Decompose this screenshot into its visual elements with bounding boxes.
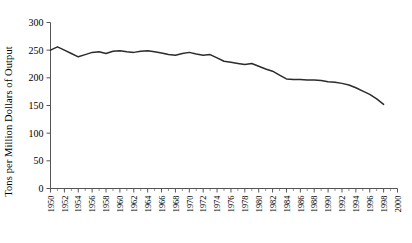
x-tick-label: 1978 xyxy=(241,196,250,213)
y-tick-label: 250 xyxy=(29,45,44,56)
x-tick-label: 1968 xyxy=(172,196,181,213)
x-tick-label: 1956 xyxy=(88,196,97,213)
x-tick-label: 1986 xyxy=(297,196,306,213)
y-axis-tick-marks xyxy=(47,23,51,189)
x-tick-label: 1966 xyxy=(158,196,167,213)
x-tick-label: 1974 xyxy=(213,195,222,213)
chart-figure: Tons per Million Dollars of Output 05010… xyxy=(0,0,412,243)
x-tick-label: 1954 xyxy=(74,195,83,213)
x-tick-label: 1952 xyxy=(61,196,70,213)
chart-plot-area: 050100150200250300 195019521954195619581… xyxy=(0,0,412,243)
x-tick-label: 2000 xyxy=(394,196,403,213)
x-tick-label: 1964 xyxy=(144,195,153,213)
x-tick-label: 1996 xyxy=(366,196,375,213)
y-tick-label: 300 xyxy=(29,17,44,28)
x-tick-label: 1972 xyxy=(199,196,208,213)
y-axis-tick-labels: 050100150200250300 xyxy=(29,17,44,194)
y-tick-label: 200 xyxy=(29,72,44,83)
x-axis-tick-labels: 1950195219541956195819601962196419661968… xyxy=(47,195,403,213)
x-tick-label: 1950 xyxy=(47,196,56,213)
chart-axes xyxy=(51,23,398,189)
x-tick-label: 1998 xyxy=(380,196,389,213)
y-tick-label: 0 xyxy=(39,183,44,194)
x-tick-label: 1984 xyxy=(283,195,292,213)
x-tick-label: 1988 xyxy=(310,196,319,213)
y-tick-label: 100 xyxy=(29,128,44,139)
x-tick-label: 1976 xyxy=(227,196,236,213)
x-tick-label: 1992 xyxy=(338,196,347,213)
x-tick-label: 1990 xyxy=(324,196,333,213)
data-series-line xyxy=(51,47,384,105)
y-tick-label: 50 xyxy=(34,155,44,166)
x-tick-label: 1962 xyxy=(130,196,139,213)
x-tick-label: 1958 xyxy=(102,196,111,213)
x-axis-tick-marks xyxy=(51,189,398,193)
x-tick-label: 1982 xyxy=(269,196,278,213)
y-tick-label: 150 xyxy=(29,100,44,111)
x-tick-label: 1970 xyxy=(186,196,195,213)
x-tick-label: 1960 xyxy=(116,196,125,213)
x-tick-label: 1980 xyxy=(255,196,264,213)
x-tick-label: 1994 xyxy=(352,195,361,213)
